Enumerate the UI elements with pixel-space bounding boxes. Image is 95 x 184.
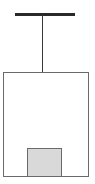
inner-block — [27, 148, 62, 176]
suspension-line — [42, 15, 43, 72]
ceiling-bar — [15, 13, 75, 16]
